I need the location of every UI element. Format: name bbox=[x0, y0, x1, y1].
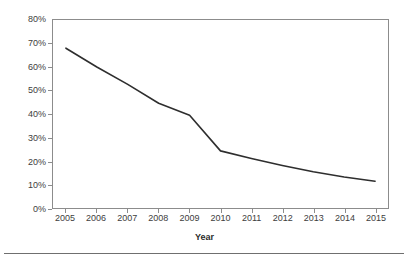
y-tick-label: 30% bbox=[0, 133, 46, 142]
x-tick-label: 2014 bbox=[335, 214, 355, 223]
x-tick-mark bbox=[189, 209, 190, 213]
series-polyline bbox=[66, 48, 375, 181]
x-tick-mark bbox=[376, 209, 377, 213]
x-tick-label: 2010 bbox=[210, 214, 230, 223]
x-tick-mark bbox=[252, 209, 253, 213]
x-tick-mark bbox=[96, 209, 97, 213]
line-chart-figure: 0%10%20%30%40%50%60%70%80% 2005200620072… bbox=[0, 0, 409, 263]
y-tick-mark bbox=[48, 209, 52, 210]
x-tick-mark bbox=[314, 209, 315, 213]
x-tick-label: 2009 bbox=[179, 214, 199, 223]
x-tick-mark bbox=[158, 209, 159, 213]
x-tick-mark bbox=[65, 209, 66, 213]
x-tick-mark bbox=[345, 209, 346, 213]
y-axis: 0%10%20%30%40%50%60%70%80% bbox=[0, 0, 46, 263]
y-tick-label: 40% bbox=[0, 110, 46, 119]
y-tick-label: 70% bbox=[0, 38, 46, 47]
x-tick-mark bbox=[221, 209, 222, 213]
y-tick-label: 50% bbox=[0, 86, 46, 95]
x-tick-label: 2013 bbox=[304, 214, 324, 223]
x-tick-label: 2005 bbox=[55, 214, 75, 223]
x-tick-label: 2007 bbox=[117, 214, 137, 223]
y-tick-label: 60% bbox=[0, 62, 46, 71]
x-tick-label: 2008 bbox=[148, 214, 168, 223]
y-tick-label: 10% bbox=[0, 181, 46, 190]
x-tick-mark bbox=[283, 209, 284, 213]
x-tick-label: 2006 bbox=[86, 214, 106, 223]
x-axis-title: Year bbox=[0, 232, 409, 242]
plot-area bbox=[52, 19, 389, 209]
x-tick-label: 2015 bbox=[366, 214, 386, 223]
series-line bbox=[53, 20, 388, 208]
x-tick-label: 2012 bbox=[273, 214, 293, 223]
y-tick-label: 20% bbox=[0, 157, 46, 166]
y-tick-label: 80% bbox=[0, 15, 46, 24]
x-tick-label: 2011 bbox=[242, 214, 261, 223]
footer-divider bbox=[4, 253, 404, 254]
x-tick-mark bbox=[127, 209, 128, 213]
y-tick-label: 0% bbox=[0, 205, 46, 214]
